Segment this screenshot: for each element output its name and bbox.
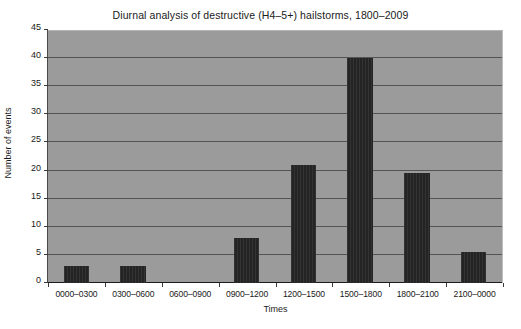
y-tick-label: 40 [31,51,41,60]
y-tick-label: 30 [31,107,41,116]
bar-slot [275,31,332,283]
x-tick-label: 1200–1500 [276,289,333,299]
x-axis-title: Times [48,304,503,314]
bar[interactable] [291,165,317,283]
x-tick-mark [446,283,447,287]
bar-series [48,31,502,283]
y-tick-label: 25 [31,135,41,144]
y-tick-label: 10 [31,220,41,229]
bar-slot [105,31,162,283]
bar[interactable] [347,58,373,283]
bar-slot [48,31,105,283]
bar-slot [445,31,502,283]
bar-slot [218,31,275,283]
y-tick-label: 0 [36,276,41,285]
x-tick-mark [332,283,333,287]
bar[interactable] [461,252,487,283]
bar-slot [162,31,219,283]
bar[interactable] [234,238,260,283]
y-axis: 051015202530354045 Number of events [0,30,48,283]
x-tick-label: 0900–1200 [219,289,276,299]
x-tick-mark [162,283,163,287]
bar-slot [389,31,446,283]
x-tick-label: 0300–0600 [105,289,162,299]
x-tick-label: 0600–0900 [162,289,219,299]
chart-title: Diurnal analysis of destructive (H4–5+) … [0,9,521,21]
y-tick-label: 35 [31,79,41,88]
y-tick-label: 15 [31,192,41,201]
bar[interactable] [404,173,430,283]
y-tick-label: 5 [36,248,41,257]
x-tick-mark [389,283,390,287]
x-tick-mark [105,283,106,287]
x-tick-mark [503,283,504,287]
y-tick-label: 20 [31,164,41,173]
x-tick-label: 0000–0300 [48,289,105,299]
chart-figure: Diurnal analysis of destructive (H4–5+) … [0,0,521,329]
bar[interactable] [64,266,90,283]
x-axis: 0000–03000300–06000600–09000900–12001200… [48,283,503,329]
y-axis-title: Number of events [3,83,13,203]
x-tick-label: 1500–1800 [332,289,389,299]
bar-slot [332,31,389,283]
y-tick-label: 45 [31,23,41,32]
x-tick-label: 2100–0000 [446,289,503,299]
x-tick-mark [48,283,49,287]
x-axis-tick-labels: 0000–03000300–06000600–09000900–12001200… [48,289,503,299]
x-axis-ticks [48,283,503,288]
x-tick-mark [219,283,220,287]
x-tick-label: 1800–2100 [389,289,446,299]
x-tick-mark [276,283,277,287]
bar[interactable] [120,266,146,283]
plot-area [48,30,503,283]
